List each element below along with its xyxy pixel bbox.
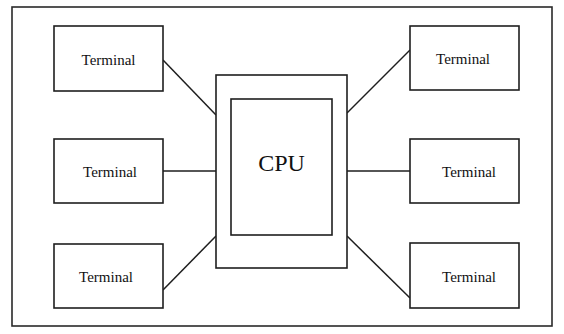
terminal-left-middle: Terminal xyxy=(54,139,163,203)
cpu-terminal-diagram: CPU Terminal Terminal Terminal Terminal … xyxy=(0,0,564,334)
terminal-label: Terminal xyxy=(442,269,496,285)
terminal-label: Terminal xyxy=(436,51,490,67)
cpu-label: CPU xyxy=(258,150,305,176)
terminal-right-top: Terminal xyxy=(410,26,519,90)
terminal-right-middle: Terminal xyxy=(410,139,519,203)
terminal-label: Terminal xyxy=(442,164,496,180)
terminal-label: Terminal xyxy=(79,269,133,285)
terminal-left-bottom: Terminal xyxy=(54,244,163,308)
cpu-node: CPU xyxy=(216,75,347,268)
terminal-right-bottom: Terminal xyxy=(410,243,519,308)
terminal-left-top: Terminal xyxy=(54,26,163,91)
terminal-label: Terminal xyxy=(83,164,137,180)
terminal-label: Terminal xyxy=(82,52,136,68)
